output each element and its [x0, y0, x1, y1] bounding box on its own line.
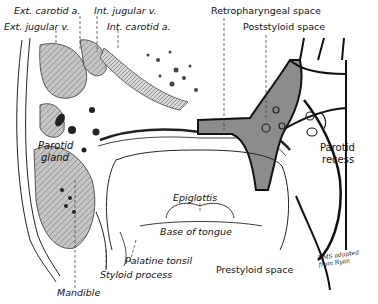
label-ext-jugular: Ext. jugular v. [4, 22, 69, 32]
upper-middle-vessels [147, 51, 199, 93]
label-palatine-tonsil: Palatine tonsil [125, 256, 192, 266]
label-int-carotid: Int. carotid a. [107, 22, 171, 32]
label-parotid-gland-line2: gland [41, 153, 69, 163]
label-mandible: Mandible [57, 288, 100, 298]
retropharyngeal-space-shading [198, 60, 301, 190]
label-poststyloid-space: Poststyloid space [243, 22, 325, 32]
pterygoid-muscle [100, 48, 188, 110]
label-ext-carotid: Ext. carotid a. [14, 6, 80, 16]
label-parotid-recess-line2: recess [322, 155, 354, 165]
label-int-jugular: Int. jugular v. [94, 6, 157, 16]
label-styloid-process: Styloid process [100, 270, 172, 280]
label-prestyloid-space: Prestyloid space [216, 265, 293, 275]
label-parotid-gland-line1: Parotid [38, 141, 73, 151]
label-retropharyngeal-space: Retropharyngeal space [211, 6, 321, 16]
label-parotid-recess-line1: Parotid [320, 143, 355, 153]
label-base-of-tongue: Base of tongue [160, 227, 232, 237]
label-epiglottis: Epiglottis [173, 193, 217, 203]
